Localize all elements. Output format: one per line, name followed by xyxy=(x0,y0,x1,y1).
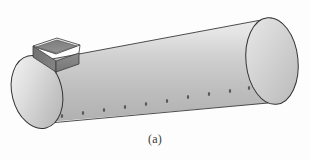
rivet xyxy=(103,108,105,112)
rivet xyxy=(229,89,231,93)
figure-container: (a) xyxy=(0,0,310,160)
rivet xyxy=(208,92,210,96)
cylinder-body xyxy=(24,18,282,123)
nozzle-right-edge xyxy=(79,45,80,53)
rivet xyxy=(124,105,126,109)
rivet xyxy=(82,111,84,115)
rivet xyxy=(187,95,189,99)
rivet xyxy=(166,99,168,103)
figure-caption: (a) xyxy=(0,132,310,147)
rivet xyxy=(145,102,147,106)
cylinder-body-group xyxy=(24,18,282,123)
rivet xyxy=(248,86,250,90)
rivet xyxy=(61,114,63,118)
